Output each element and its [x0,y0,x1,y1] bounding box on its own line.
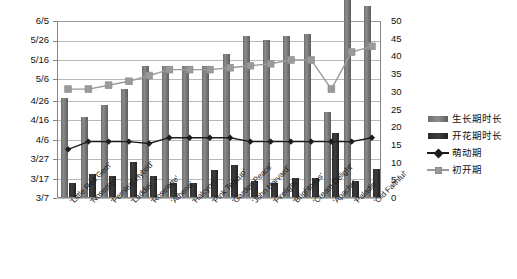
legend-item[interactable]: 生长期时长 [427,110,515,127]
legend-swatch-flower-icon [427,129,449,142]
y-axis-left-tick-mark [53,179,57,180]
bar-growth-period [61,98,68,197]
y-axis-left-tick-mark [53,120,57,121]
y-axis-right-tick-label: 15 [391,140,402,150]
y-axis-left-tick-label: 5/6 [36,74,49,84]
legend-swatch-growth-icon [427,112,449,125]
y-axis-right-tick-label: 25 [391,105,402,115]
legend-item[interactable]: 初开期 [427,161,515,178]
y-axis-right-tick-label: 40 [391,51,402,61]
bar-growth-period [182,66,189,197]
y-axis-left-tick-label: 3/17 [31,174,50,184]
y-axis-left-tick-label: 4/6 [36,135,49,145]
y-axis-right-tick-label: 10 [391,158,402,168]
y-axis-left-tick-mark [53,101,57,102]
y-axis-left-tick-mark [53,41,57,42]
y-axis-left-tick-label: 4/26 [31,96,50,106]
y-axis-left-tick-label: 6/5 [36,16,49,26]
y-axis-left-tick-mark [53,60,57,61]
y-axis-left-tick-mark [53,21,57,22]
legend-item[interactable]: 开花期时长 [427,127,515,144]
bar-growth-period [364,6,371,197]
y-axis-left-tick-label: 5/16 [31,55,50,65]
y-axis-right-tick-label: 20 [391,122,402,132]
bar-growth-period [202,66,209,197]
legend-item-label: 初开期 [452,164,482,175]
y-axis-right-tick-label: 35 [391,69,402,79]
legend-item-label: 开花期时长 [452,130,502,141]
chart-container: 3/73/173/274/64/164/265/65/165/266/5 051… [0,0,517,279]
bar-growth-period [223,54,230,197]
legend-item-label: 萌动期 [452,147,482,158]
chart-legend: 生长期时长开花期时长萌动期初开期 [427,110,515,178]
legend-marker-diamond-icon [427,146,449,159]
legend-item[interactable]: 萌动期 [427,144,515,161]
y-axis-right-tick-label: 30 [391,87,402,97]
y-axis-left-tick-mark [53,79,57,80]
y-axis-left-tick-label: 3/7 [36,193,49,203]
legend-marker-square-icon [427,163,449,176]
bar-growth-period [162,66,169,197]
y-axis-left-tick-mark [53,198,57,199]
legend-item-label: 生长期时长 [452,113,502,124]
y-axis-left-tick-label: 4/16 [31,115,50,125]
bar-growth-period [304,34,311,197]
y-axis-left: 3/73/173/274/64/164/265/65/165/266/5 [0,0,55,210]
y-axis-left-tick-mark [53,140,57,141]
y-axis-left-tick-label: 3/27 [31,154,50,164]
y-axis-right-tick-label: 45 [391,34,402,44]
x-axis-category-labels: 'Little Red Gem''Nosegay''Fernleaf Hybri… [57,200,381,279]
y-axis-right-tick-label: 50 [391,16,402,26]
y-axis-right-tick-label: 0 [391,193,396,203]
y-axis-left-tick-mark [53,159,57,160]
y-axis-left-tick-label: 5/26 [31,35,50,45]
